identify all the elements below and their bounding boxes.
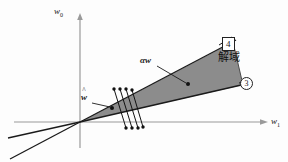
alpha-w-hat-label: αw: [140, 56, 151, 65]
constraint-endpoint-dot: [124, 126, 127, 129]
w-hat-point: [110, 106, 114, 110]
w-hat-leader-line: [92, 103, 110, 107]
constraint-endpoint-dot: [124, 87, 127, 90]
w-hat-label-text: w: [81, 93, 87, 102]
constraint-endpoint-dot: [112, 87, 115, 90]
constraint-endpoint-dot: [118, 87, 121, 90]
vertical-axis-arrowhead: [77, 13, 83, 20]
cone-lower-boundary-extension: [8, 122, 80, 138]
boxed-number-4: 4: [222, 34, 235, 50]
constraint-endpoint-dot: [130, 88, 133, 91]
vertical-axis-label-sub: 0: [60, 12, 63, 18]
alpha-w-hat-label-text: αw: [140, 55, 151, 65]
horizontal-axis-label-sub: 1: [277, 122, 280, 128]
boxed-number-4-text: 4: [222, 37, 235, 51]
solution-region-diagram: w0 w1 w αw 解域 4 3: [0, 0, 288, 162]
horizontal-axis-arrowhead: [260, 119, 268, 125]
cone-upper-boundary-extension: [10, 122, 80, 159]
w-hat-label: w: [81, 93, 87, 102]
vertical-axis-label: w0: [54, 7, 63, 18]
solution-region-label: 解域: [218, 52, 240, 63]
alpha-w-hat-point: [186, 82, 190, 86]
circled-number-3-text: 3: [240, 77, 253, 90]
horizontal-axis-label: w1: [271, 117, 280, 128]
constraint-endpoint-dot: [136, 126, 139, 129]
circled-number-3: 3: [240, 77, 253, 90]
constraint-endpoint-dot: [141, 125, 144, 128]
constraint-endpoint-dot: [130, 126, 133, 129]
solution-region-label-text: 解域: [218, 51, 240, 64]
